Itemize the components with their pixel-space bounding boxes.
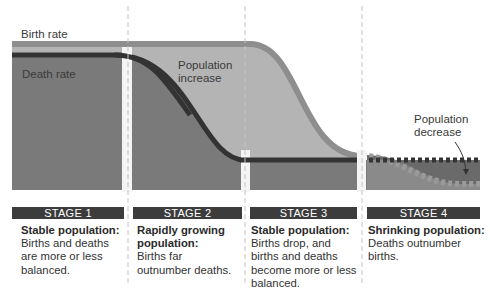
stage-4-description: Shrinking population: Deaths outnumberbi… — [368, 224, 485, 264]
stage-2-description: Rapidly growingpopulation: Births farout… — [137, 224, 231, 277]
stage-3-bar: STAGE 3 — [250, 207, 357, 219]
stage-1-description: Stable population: Births and deathsare … — [21, 224, 120, 277]
population-decrease-label: Populationdecrease — [414, 113, 468, 139]
birth-rate-label: Birth rate — [21, 28, 68, 41]
stage-3-description: Stable population: Births drop, andbirth… — [251, 224, 356, 289]
death-rate-label: Death rate — [22, 68, 76, 81]
stage-gap — [122, 47, 132, 192]
stage-4-bar: STAGE 4 — [367, 207, 480, 219]
stage-2-bar: STAGE 2 — [133, 207, 242, 219]
stage-1-bar: STAGE 1 — [12, 207, 124, 219]
population-increase-label: Populationincrease — [178, 59, 232, 85]
